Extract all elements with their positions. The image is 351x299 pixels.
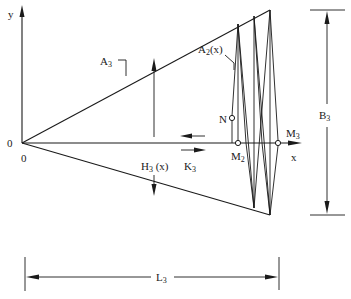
y-axis-label: y: [8, 8, 14, 20]
b3-down-arrowhead-icon: [325, 201, 330, 214]
h3-down-arrowhead-icon: [152, 184, 157, 196]
point-M2: [235, 140, 240, 145]
h3-up-arrowhead-icon: [152, 58, 157, 71]
y-axis: y: [8, 5, 25, 143]
point-N: [229, 115, 234, 120]
diagram-canvas: y x 0 0 N M2 M3 A3: [0, 0, 351, 299]
annotation-A2x: A2(x): [198, 43, 234, 70]
label-L3: L3: [156, 271, 167, 285]
b3-up-arrowhead-icon: [325, 11, 330, 24]
x-axis-label: x: [291, 151, 297, 163]
dimension-L3: L3: [25, 257, 279, 291]
k3-left-arrowhead-icon: [180, 134, 192, 139]
triangle-outline: [22, 10, 270, 215]
label-B3: B3: [319, 109, 330, 123]
origin-x-label: 0: [21, 152, 27, 164]
k3-right-arrowhead-icon: [194, 148, 206, 153]
label-A2x: A2(x): [198, 43, 223, 57]
label-A3: A3: [100, 55, 112, 69]
x-axis-arrowhead-icon: [288, 141, 302, 146]
l3-right-arrowhead-icon: [265, 275, 278, 280]
origin-y-label: 0: [7, 137, 13, 149]
upper-edge: [22, 10, 270, 143]
dimension-H3x: H3 (x): [141, 58, 169, 196]
annotation-K3: K3: [180, 134, 206, 175]
zigzag-structure: [232, 10, 278, 215]
label-M2: M2: [231, 150, 245, 164]
label-N: N: [219, 113, 227, 125]
y-axis-arrowhead-icon: [20, 5, 25, 17]
annotation-A3: A3: [100, 55, 126, 76]
label-H3x: H3 (x): [141, 160, 169, 174]
label-M3: M3: [286, 127, 300, 141]
dimension-B3: B3: [310, 10, 345, 215]
point-M3: [275, 140, 280, 145]
l3-left-arrowhead-icon: [26, 275, 39, 280]
label-K3: K3: [184, 160, 196, 174]
